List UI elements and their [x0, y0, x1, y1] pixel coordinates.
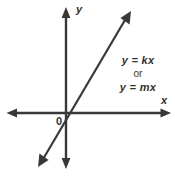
linear-function-graph-figure: y x 0 y = kx or y = mx: [0, 0, 175, 184]
line-arrow-upper-right-icon: [120, 11, 131, 24]
y-axis: [62, 7, 71, 169]
y-axis-arrow-down-icon: [62, 158, 71, 169]
origin-label: 0: [56, 116, 62, 127]
y-axis-label: y: [76, 4, 82, 15]
x-axis-arrow-left-icon: [7, 109, 18, 118]
x-axis-arrow-right-icon: [161, 109, 172, 118]
line-arrow-lower-left-icon: [38, 154, 49, 167]
equation-annotation: y = kx or y = mx: [110, 54, 166, 95]
equation-primary-label: y = kx: [110, 54, 166, 66]
y-axis-arrow-up-icon: [62, 7, 71, 18]
equation-alternate-label: y = mx: [110, 81, 166, 93]
x-axis-label: x: [161, 95, 167, 106]
equation-conjunction-label: or: [110, 68, 166, 79]
x-axis: [7, 109, 172, 118]
